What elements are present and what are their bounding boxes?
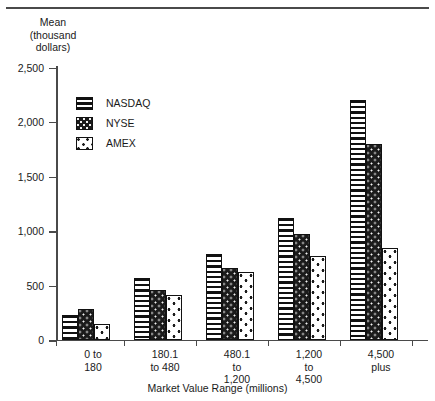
x-label-1: 180.1 to 480 [127,348,203,373]
legend-label-nasdaq: NASDAQ [106,97,150,109]
x-tick-5 [412,340,413,346]
y-tick-2000 [49,122,56,123]
bar-nyse-4[interactable] [366,144,382,340]
y-tick-label-2000: 2,000 [0,116,44,128]
bar-nasdaq-1[interactable] [134,278,150,340]
bar-amex-2[interactable] [238,272,254,340]
bar-nasdaq-2[interactable] [206,254,222,339]
bar-nasdaq-0[interactable] [62,315,78,339]
legend-swatch-amex-icon [76,137,93,150]
bar-group-4 [350,66,412,340]
bar-nyse-3[interactable] [294,234,310,340]
legend-swatch-nasdaq-icon [76,97,93,110]
x-axis-title: Market Value Range (millions) [0,382,435,394]
bar-nyse-1[interactable] [150,290,166,339]
bar-nasdaq-4[interactable] [350,100,366,340]
bar-nyse-0[interactable] [78,309,94,339]
legend-item-amex[interactable]: AMEX [76,133,150,153]
x-tick-2 [196,340,197,346]
legend-label-nyse: NYSE [106,117,135,129]
legend-item-nyse[interactable]: NYSE [76,113,150,133]
legend-label-amex: AMEX [106,137,136,149]
legend-item-nasdaq[interactable]: NASDAQ [76,93,150,113]
y-tick-1500 [49,177,56,178]
y-tick-500 [49,286,56,287]
bar-amex-1[interactable] [166,295,182,340]
y-tick-label-1500: 1,500 [0,171,44,183]
y-tick-label-1000: 1,000 [0,225,44,237]
bar-amex-4[interactable] [382,248,398,340]
x-label-3: 1,200 to 4,500 [271,348,347,386]
x-label-0: 0 to 180 [55,348,131,373]
y-tick-label-0: 0 [0,334,44,346]
x-label-4: 4,500 plus [343,348,419,373]
bar-amex-0[interactable] [94,324,110,339]
bar-group-3 [278,66,340,340]
x-tick-3 [268,340,269,346]
y-tick-2500 [49,68,56,69]
x-label-2: 480.1 to 1,200 [199,348,275,386]
legend-swatch-nyse-icon [76,117,93,130]
bar-amex-3[interactable] [310,256,326,340]
y-tick-label-2500: 2,500 [0,62,44,74]
bar-group-2 [206,66,268,340]
y-tick-1000 [49,231,56,232]
y-axis-title: Mean (thousand dollars) [14,16,92,54]
y-tick-0 [49,340,56,341]
x-tick-0 [56,340,57,346]
bar-nasdaq-3[interactable] [278,218,294,340]
x-tick-4 [340,340,341,346]
chart-legend: NASDAQ NYSE AMEX [76,93,150,153]
bar-nyse-2[interactable] [222,268,238,340]
x-tick-1 [124,340,125,346]
x-axis-line [56,340,428,342]
y-tick-label-500: 500 [0,280,44,292]
top-divider-rule [6,7,429,9]
